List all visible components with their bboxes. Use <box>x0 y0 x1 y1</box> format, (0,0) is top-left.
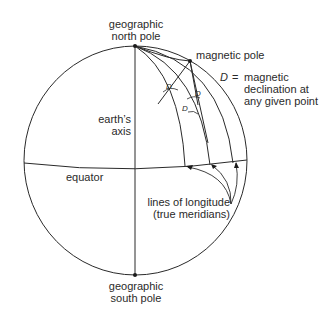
angle-marker-1: D <box>166 81 172 93</box>
angle-marker-3: D <box>182 103 188 115</box>
south-pole-label: geographic south pole <box>96 280 176 304</box>
earths-axis-label: earth’s axis <box>80 113 131 137</box>
longitude-label: lines of longitude (true meridians) <box>140 196 230 220</box>
declination-definition: magnetic declination at any given point <box>244 71 318 107</box>
south-pole-dot <box>133 273 137 277</box>
declination-equals: = <box>229 71 242 83</box>
declination-symbol: D <box>220 71 228 83</box>
magnetic-pole-label: magnetic pole <box>196 49 265 61</box>
north-pole-dot <box>133 44 137 48</box>
north-pole-label: geographic north pole <box>96 18 176 42</box>
equator-label: equator <box>66 171 103 183</box>
magnetic-pole-dot <box>188 59 192 63</box>
angle-marker-2: D <box>195 88 201 100</box>
globe-diagram <box>0 0 334 314</box>
